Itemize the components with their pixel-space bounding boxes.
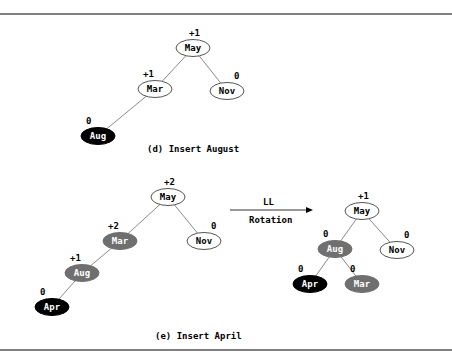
balance-factor: 0 xyxy=(86,116,91,126)
tree-node-mar: Mar+2 xyxy=(103,221,137,250)
balance-factor: +2 xyxy=(108,221,119,231)
caption-d: (d) Insert August xyxy=(147,144,239,154)
tree-node-aug: Aug0 xyxy=(81,116,115,145)
balance-factor: 0 xyxy=(350,264,355,274)
avl-diagram: May+1Mar+1Nov0Aug0May+2Mar+2Nov0Aug+1Apr… xyxy=(0,0,452,355)
tree-node-nov: Nov0 xyxy=(187,221,221,250)
node-label: Mar xyxy=(354,279,371,289)
node-label: Mar xyxy=(112,236,129,246)
node-label: Apr xyxy=(302,279,319,289)
node-label: Nov xyxy=(219,86,236,96)
node-label: Aug xyxy=(74,268,90,278)
node-label: Nov xyxy=(196,236,213,246)
tree-node-nov: Nov0 xyxy=(380,230,414,259)
balance-factor: 0 xyxy=(234,71,239,81)
node-label: Apr xyxy=(44,302,61,312)
tree-node-may: May+1 xyxy=(345,191,379,220)
caption-e: (e) Insert April xyxy=(155,331,242,341)
tree-node-aug: Aug0 xyxy=(318,229,352,258)
node-label: Mar xyxy=(147,84,164,94)
node-label: May xyxy=(354,206,371,216)
tree-node-mar: Mar0 xyxy=(345,264,379,293)
tree-node-apr: Apr0 xyxy=(35,287,69,316)
node-label: May xyxy=(185,43,202,53)
balance-factor: +1 xyxy=(189,28,200,38)
balance-factor: 0 xyxy=(323,229,328,239)
tree-nodes: May+1Mar+1Nov0Aug0May+2Mar+2Nov0Aug+1Apr… xyxy=(35,28,414,316)
balance-factor: 0 xyxy=(40,287,45,297)
tree-node-may: May+2 xyxy=(151,177,185,206)
node-label: Nov xyxy=(389,245,406,255)
balance-factor: +1 xyxy=(358,191,369,201)
balance-factor: +1 xyxy=(70,253,81,263)
balance-factor: 0 xyxy=(404,230,409,240)
ll-rotation-arrow: LL Rotation xyxy=(230,197,313,225)
node-label: May xyxy=(160,192,177,202)
balance-factor: 0 xyxy=(298,264,303,274)
tree-node-aug: Aug+1 xyxy=(65,253,99,282)
balance-factor: +1 xyxy=(143,69,154,79)
arrow-label-ll: LL xyxy=(263,197,274,207)
arrow-label-rotation: Rotation xyxy=(249,215,292,225)
node-label: Aug xyxy=(327,244,343,254)
node-label: Aug xyxy=(90,131,106,141)
tree-node-apr: Apr0 xyxy=(293,264,327,293)
tree-node-mar: Mar+1 xyxy=(138,69,172,98)
tree-node-may: May+1 xyxy=(176,28,210,57)
balance-factor: 0 xyxy=(211,221,216,231)
balance-factor: +2 xyxy=(164,177,175,187)
